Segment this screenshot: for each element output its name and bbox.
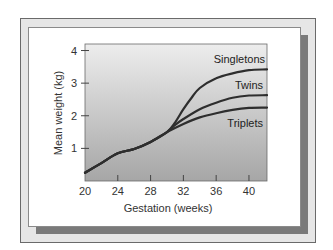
x-tick-label: 20: [79, 185, 91, 197]
x-tick-label: 40: [243, 185, 255, 197]
y-tick-label: 2: [71, 110, 77, 122]
x-tick-label: 32: [177, 185, 189, 197]
x-tick-label: 24: [112, 185, 124, 197]
series-label-triplets: Triplets: [227, 117, 263, 129]
x-tick-label: 36: [210, 185, 222, 197]
y-tick-label: 1: [71, 142, 77, 154]
x-tick-label: 28: [144, 185, 156, 197]
series-label-twins: Twins: [235, 79, 264, 91]
line-chart: 1234 202428323640 Gestation (weeks) Mean…: [0, 0, 333, 250]
y-tick-label: 3: [71, 77, 77, 89]
y-tick-label: 4: [71, 45, 77, 57]
x-axis-title: Gestation (weeks): [124, 202, 213, 214]
series-label-singletons: Singletons: [214, 53, 266, 65]
y-axis-title: Mean weight (kg): [52, 71, 64, 155]
